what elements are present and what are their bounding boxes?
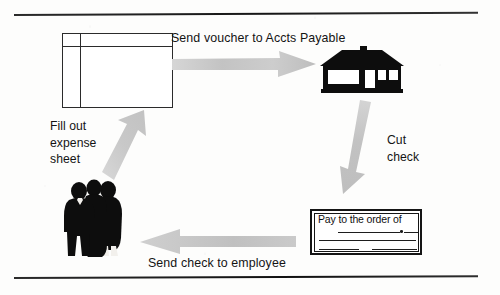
spreadsheet-icon [62,33,173,108]
step-label-fill-out-expense-sheet: Fill out expense sheet [50,118,96,168]
page-rule-bottom-divider [14,275,478,279]
arrow-down-icon [338,100,382,196]
check-line-memo [319,249,359,250]
arrow-up-right-icon [100,108,152,182]
step-label-send-check-to-employee: Send check to employee [148,256,286,270]
check-line-amount [404,232,418,233]
check-amount-dot [400,230,403,233]
diagram-canvas: Send voucher to Accts Payable Cut check … [0,0,500,295]
check-line-payee [338,232,400,233]
people-group-icon [63,176,127,258]
check-icon: Pay to the order of [310,209,422,255]
check-signature-lines [312,211,420,253]
arrow-right-icon [170,50,318,80]
house-icon [316,46,408,94]
check-line-signature [372,249,417,250]
spreadsheet-first-column-line [80,34,81,107]
arrow-left-icon [136,228,298,256]
page-rule-top-divider [14,12,478,16]
step-label-send-voucher: Send voucher to Accts Payable [171,31,345,45]
check-line-written-amount [319,240,416,241]
step-label-cut-check: Cut check [387,132,419,166]
